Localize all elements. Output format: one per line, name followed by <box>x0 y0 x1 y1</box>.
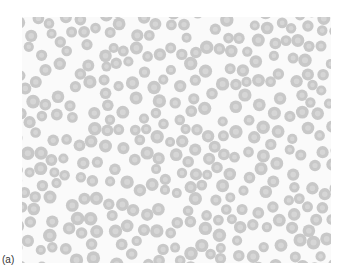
micrograph-image <box>22 17 331 263</box>
red-blood-cells <box>22 17 331 263</box>
figure-label: (a) <box>2 254 14 265</box>
